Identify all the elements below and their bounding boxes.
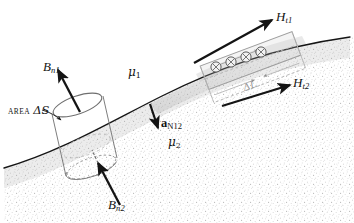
label-mu-2: μ2 xyxy=(168,136,181,150)
label-mu-1: μ1 xyxy=(128,66,141,80)
label-a-n12: aN12 xyxy=(161,117,182,131)
delta-s-symbol: ΔS xyxy=(33,103,49,117)
current-symbol xyxy=(256,47,266,57)
label-b-n1: Bn1 xyxy=(43,60,60,75)
label-h-t1: Ht1 xyxy=(276,10,292,25)
current-symbol xyxy=(226,57,236,67)
label-b-n2: Bn2 xyxy=(108,198,125,213)
magnetic-boundary-figure: Bn1 AREAΔS Bn2 μ1 aN12 μ2 ΔL Ht1 Ht2 xyxy=(0,0,354,223)
current-symbol xyxy=(241,52,251,62)
label-h-t2: Ht2 xyxy=(293,76,309,91)
area-caps: AREA xyxy=(8,107,30,116)
current-symbol xyxy=(211,62,221,72)
figure-canvas xyxy=(0,0,354,223)
label-area-delta-s: AREAΔS xyxy=(8,101,49,117)
